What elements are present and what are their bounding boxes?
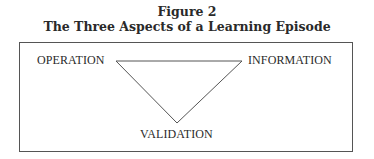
node-validation: VALIDATION	[140, 127, 213, 142]
node-operation: OPERATION	[37, 53, 105, 68]
triangle-shape	[116, 61, 242, 123]
node-information: INFORMATION	[248, 53, 332, 68]
